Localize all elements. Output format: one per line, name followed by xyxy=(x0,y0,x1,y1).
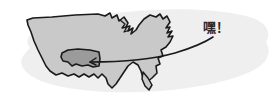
callout-label-text: 嘿！ xyxy=(203,20,229,35)
map-illustration-svg xyxy=(0,0,278,105)
map-illustration-canvas: 嘿！ xyxy=(0,0,278,105)
